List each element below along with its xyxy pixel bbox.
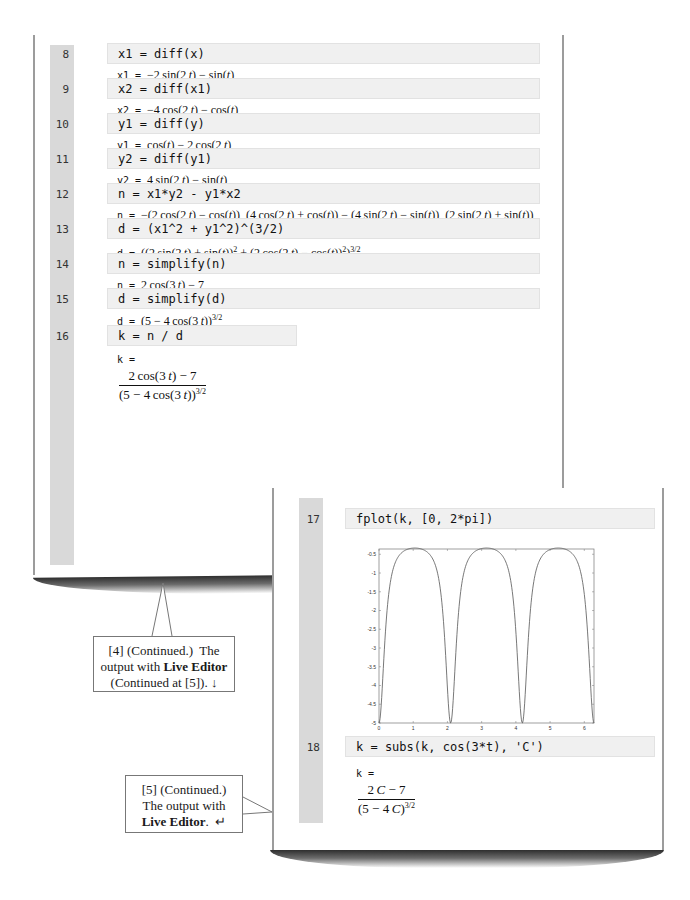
callout-5-pointer <box>0 0 690 900</box>
callout-5: [5] (Continued.) The output with Live Ed… <box>125 775 243 833</box>
